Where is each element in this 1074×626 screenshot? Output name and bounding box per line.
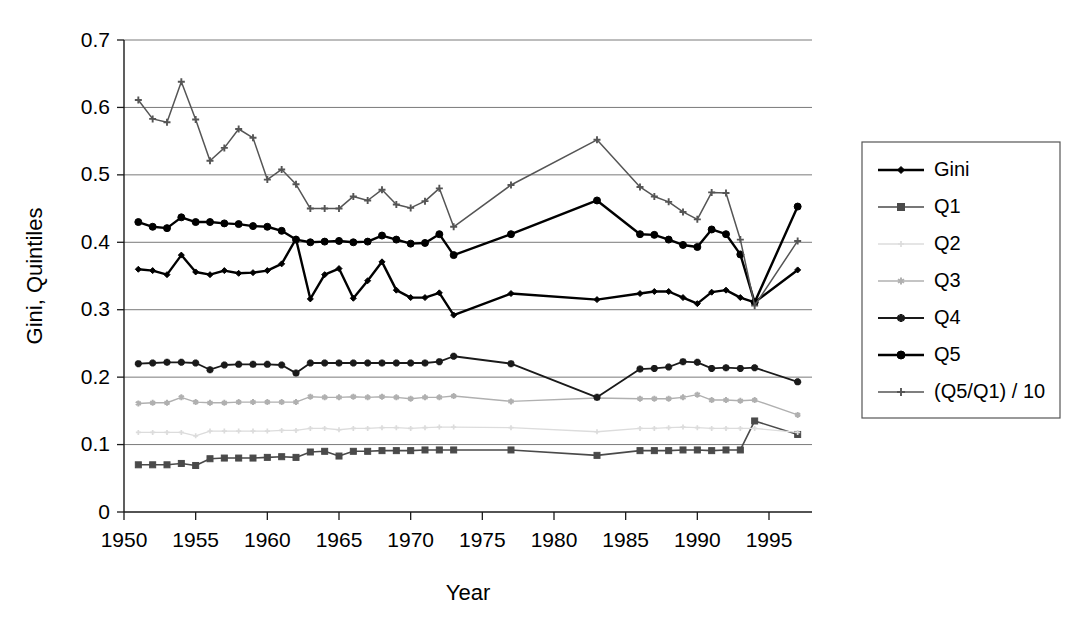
marker-square bbox=[322, 448, 328, 454]
marker-plus bbox=[337, 427, 342, 432]
data-point-marker bbox=[178, 214, 185, 221]
marker-square bbox=[408, 448, 414, 454]
data-point-marker bbox=[221, 220, 228, 227]
data-point-marker bbox=[150, 268, 156, 274]
x-tick-label: 1965 bbox=[316, 528, 363, 551]
data-point-marker bbox=[436, 231, 443, 238]
data-point-marker bbox=[666, 396, 671, 402]
legend-item-label: Q2 bbox=[934, 232, 961, 254]
data-point-marker bbox=[264, 361, 270, 368]
data-point-marker bbox=[351, 394, 356, 400]
marker-circle bbox=[135, 219, 142, 226]
marker-plus bbox=[738, 426, 743, 431]
marker-square bbox=[307, 449, 313, 455]
marker-asterisk bbox=[637, 366, 643, 373]
data-point-marker bbox=[250, 399, 255, 405]
marker-square bbox=[221, 455, 227, 461]
data-point-marker bbox=[407, 240, 414, 247]
marker-plus bbox=[179, 430, 184, 435]
x-tick-label: 1950 bbox=[101, 528, 148, 551]
data-point-marker bbox=[251, 429, 256, 434]
data-point-marker bbox=[264, 454, 270, 460]
data-point-marker bbox=[221, 268, 227, 274]
marker-plus bbox=[294, 428, 299, 433]
marker-circle bbox=[708, 226, 715, 233]
data-point-marker bbox=[379, 232, 386, 239]
marker-plus bbox=[666, 425, 671, 430]
marker-circle bbox=[794, 203, 801, 210]
y-tick-label: 0.5 bbox=[81, 162, 110, 185]
data-point-marker bbox=[408, 396, 413, 402]
marker-circle bbox=[293, 236, 300, 243]
data-point-marker bbox=[752, 426, 757, 431]
marker-asterisk bbox=[694, 359, 700, 366]
marker-circle bbox=[264, 223, 271, 230]
data-point-marker bbox=[222, 429, 227, 434]
marker-square bbox=[694, 447, 700, 453]
marker-circle bbox=[278, 227, 285, 234]
data-point-marker bbox=[164, 359, 170, 366]
data-point-marker bbox=[422, 239, 429, 246]
marker-asterisk bbox=[307, 359, 313, 366]
marker-star bbox=[680, 394, 685, 400]
data-point-marker bbox=[752, 418, 758, 424]
data-point-marker bbox=[307, 239, 314, 246]
data-point-marker bbox=[594, 297, 600, 303]
data-point-marker bbox=[293, 399, 298, 405]
marker-square bbox=[709, 448, 715, 454]
marker-star bbox=[207, 400, 212, 406]
data-point-marker bbox=[379, 448, 385, 454]
data-point-marker bbox=[222, 400, 227, 406]
data-point-marker bbox=[422, 295, 428, 301]
marker-square bbox=[723, 447, 729, 453]
data-point-marker bbox=[508, 398, 513, 404]
marker-star bbox=[752, 397, 757, 403]
marker-square bbox=[508, 447, 514, 453]
data-point-marker bbox=[279, 428, 284, 433]
data-point-marker bbox=[279, 454, 285, 460]
marker-asterisk bbox=[250, 361, 256, 368]
data-point-marker bbox=[150, 462, 156, 468]
marker-circle bbox=[164, 225, 171, 232]
data-point-marker bbox=[308, 394, 313, 400]
marker-circle bbox=[694, 244, 701, 251]
y-tick-label: 0.3 bbox=[81, 297, 110, 320]
marker-square bbox=[666, 448, 672, 454]
data-point-marker bbox=[278, 227, 285, 234]
marker-star bbox=[422, 394, 427, 400]
marker-diamond bbox=[651, 289, 657, 295]
data-point-marker bbox=[898, 314, 905, 322]
marker-circle bbox=[336, 237, 343, 244]
data-point-marker bbox=[651, 289, 657, 295]
data-point-marker bbox=[265, 429, 270, 434]
marker-star bbox=[379, 394, 384, 400]
marker-plus bbox=[437, 425, 442, 430]
y-tick-label: 0.6 bbox=[81, 95, 110, 118]
data-point-marker bbox=[694, 244, 701, 251]
marker-star bbox=[293, 399, 298, 405]
data-point-marker bbox=[164, 462, 170, 468]
data-point-marker bbox=[694, 359, 700, 366]
data-point-marker bbox=[235, 221, 242, 228]
marker-star bbox=[322, 394, 327, 400]
data-point-marker bbox=[350, 239, 357, 246]
marker-asterisk bbox=[795, 378, 801, 385]
marker-square bbox=[150, 462, 156, 468]
marker-square bbox=[651, 448, 657, 454]
marker-diamond bbox=[236, 270, 242, 276]
data-point-marker bbox=[665, 236, 672, 243]
data-point-marker bbox=[695, 392, 700, 398]
marker-circle bbox=[680, 241, 687, 248]
marker-star bbox=[164, 400, 169, 406]
marker-square bbox=[350, 448, 356, 454]
marker-star bbox=[193, 399, 198, 405]
marker-circle bbox=[450, 252, 457, 259]
data-point-marker bbox=[450, 252, 457, 259]
marker-plus bbox=[652, 426, 657, 431]
x-axis-title: Year bbox=[446, 580, 490, 605]
marker-asterisk bbox=[723, 364, 729, 371]
data-point-marker bbox=[794, 203, 801, 210]
marker-circle bbox=[407, 240, 414, 247]
data-point-marker bbox=[379, 394, 384, 400]
data-point-marker bbox=[595, 429, 600, 434]
